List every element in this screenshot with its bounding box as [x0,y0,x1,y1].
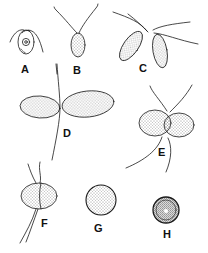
cell-b-drawing [54,4,98,57]
panel-label-e: E [158,147,165,158]
cell-a-drawing [10,30,43,54]
panel-label-g: G [94,223,103,234]
cell-drawings [0,0,208,253]
panel-label-d: D [63,128,71,139]
cell-h-drawing [153,197,179,223]
cell-g-drawing [86,185,116,215]
panel-label-h: H [163,229,171,240]
cell-f-drawing [20,162,57,243]
panel-label-a: A [21,64,29,75]
panel-label-f: F [41,218,48,229]
figure-panel-plate: A B C D E F G H [0,0,208,253]
cell-c-drawing [113,12,198,69]
cell-e-drawing [126,85,194,172]
panel-label-b: B [73,65,81,76]
cell-d-drawing [19,64,115,160]
panel-label-c: C [139,63,147,74]
